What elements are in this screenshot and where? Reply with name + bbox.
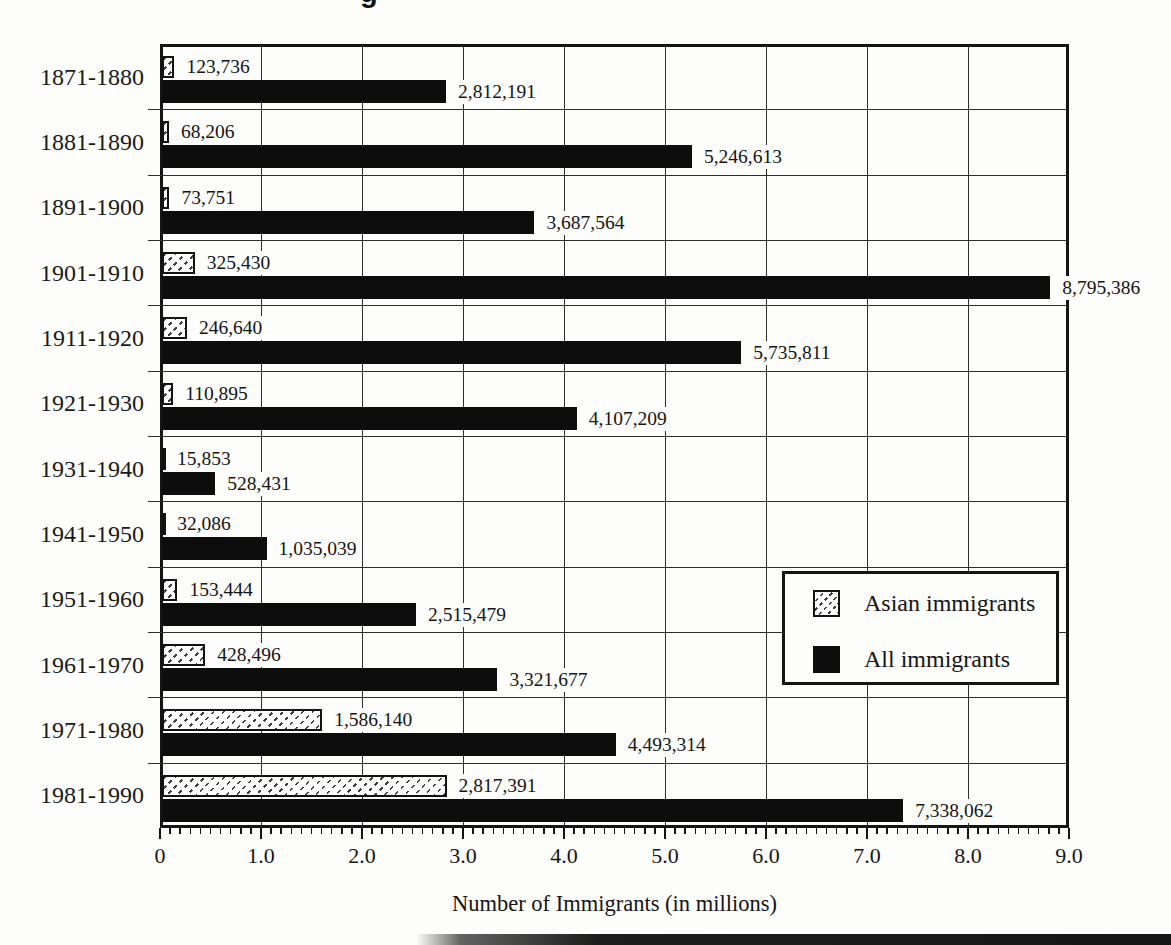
x-axis-minor-tick xyxy=(684,828,686,834)
x-axis-minor-tick xyxy=(987,828,989,834)
bar-all-immigrants xyxy=(162,799,903,822)
x-axis-minor-tick xyxy=(291,828,293,834)
bar-value-label-all: 528,431 xyxy=(223,472,294,496)
category-label: 1931-1940 xyxy=(8,455,144,483)
x-axis-minor-tick xyxy=(472,828,474,834)
bar-asian-immigrants xyxy=(162,121,169,143)
x-axis-minor-tick xyxy=(523,828,525,834)
x-axis-minor-tick xyxy=(937,828,939,834)
legend-label: All immigrants xyxy=(864,646,1010,673)
category-label: 1871-1880 xyxy=(8,63,144,91)
x-axis-major-tick xyxy=(361,828,363,839)
category-label: 1891-1900 xyxy=(8,193,144,221)
x-axis-minor-tick xyxy=(573,828,575,834)
category-label: 1981-1990 xyxy=(8,781,144,809)
x-axis-minor-tick xyxy=(533,828,535,834)
x-axis-minor-tick xyxy=(816,828,818,834)
x-axis-minor-tick xyxy=(735,828,737,834)
category-label: 1971-1980 xyxy=(8,716,144,744)
bar-all-immigrants xyxy=(162,341,741,364)
x-axis-minor-tick xyxy=(856,828,858,834)
bar-value-label-asian: 73,751 xyxy=(177,186,239,210)
x-axis-major-tick xyxy=(664,828,666,839)
x-axis-minor-tick xyxy=(604,828,606,834)
x-axis-minor-tick xyxy=(553,828,555,834)
x-axis-minor-tick xyxy=(270,828,272,834)
x-axis-minor-tick xyxy=(1048,828,1050,834)
x-axis-minor-tick xyxy=(381,828,383,834)
bar-asian-immigrants xyxy=(162,775,447,797)
x-axis-major-tick xyxy=(462,828,464,839)
x-axis-minor-tick xyxy=(705,828,707,834)
x-axis-major-tick xyxy=(1068,828,1070,839)
horizontal-gridline xyxy=(148,763,1066,764)
x-axis-minor-tick xyxy=(482,828,484,834)
chart-title-fragment: g xyxy=(360,0,378,9)
x-axis-minor-tick xyxy=(543,828,545,834)
x-axis-minor-tick xyxy=(836,828,838,834)
x-axis-minor-tick xyxy=(250,828,252,834)
bar-value-label-all: 3,687,564 xyxy=(542,211,628,235)
x-axis-minor-tick xyxy=(200,828,202,834)
horizontal-gridline xyxy=(148,305,1066,306)
x-axis-minor-tick xyxy=(280,828,282,834)
bar-all-immigrants xyxy=(162,211,534,234)
bar-value-label-all: 2,812,191 xyxy=(454,80,540,104)
horizontal-gridline xyxy=(148,697,1066,698)
x-axis-minor-tick xyxy=(644,828,646,834)
x-axis-tick-label: 0 xyxy=(130,843,190,869)
bar-value-label-asian: 68,206 xyxy=(177,120,239,144)
x-axis-minor-tick xyxy=(210,828,212,834)
x-axis-minor-tick xyxy=(846,828,848,834)
x-axis-minor-tick xyxy=(371,828,373,834)
bar-all-immigrants xyxy=(162,80,446,103)
x-axis-minor-tick xyxy=(331,828,333,834)
x-axis-minor-tick xyxy=(179,828,181,834)
x-axis-minor-tick xyxy=(755,828,757,834)
x-axis-tick-label: 5.0 xyxy=(635,843,695,869)
bar-all-immigrants xyxy=(162,276,1050,299)
x-axis-minor-tick xyxy=(886,828,888,834)
x-axis-minor-tick xyxy=(826,828,828,834)
x-axis-minor-tick xyxy=(917,828,919,834)
chart-legend: Asian immigrants All immigrants xyxy=(782,571,1059,685)
page-edge-shadow xyxy=(416,934,1171,945)
x-axis-tick-label: 3.0 xyxy=(433,843,493,869)
bar-value-label-asian: 428,496 xyxy=(213,643,284,667)
bar-value-label-all: 4,493,314 xyxy=(624,733,710,757)
category-label: 1941-1950 xyxy=(8,520,144,548)
x-axis-minor-tick xyxy=(998,828,1000,834)
bar-value-label-asian: 153,444 xyxy=(185,578,256,602)
bar-asian-immigrants xyxy=(162,644,205,666)
x-axis-minor-tick xyxy=(351,828,353,834)
x-axis-minor-tick xyxy=(654,828,656,834)
x-axis-minor-tick xyxy=(775,828,777,834)
bar-value-label-all: 3,321,677 xyxy=(505,668,591,692)
x-axis-minor-tick xyxy=(907,828,909,834)
x-axis-major-tick xyxy=(866,828,868,839)
legend-label: Asian immigrants xyxy=(864,590,1035,617)
bar-all-immigrants xyxy=(162,537,267,560)
plot-area: 123,7362,812,19168,2065,246,61373,7513,6… xyxy=(160,44,1069,828)
x-axis-major-tick xyxy=(260,828,262,839)
x-axis-minor-tick xyxy=(442,828,444,834)
x-axis-minor-tick xyxy=(897,828,899,834)
x-axis-minor-tick xyxy=(513,828,515,834)
x-axis-minor-tick xyxy=(614,828,616,834)
x-axis-minor-tick xyxy=(977,828,979,834)
bar-value-label-asian: 123,736 xyxy=(182,55,253,79)
x-axis-tick-label: 1.0 xyxy=(231,843,291,869)
x-axis-minor-tick xyxy=(321,828,323,834)
x-axis-minor-tick xyxy=(301,828,303,834)
x-axis-tick-label: 2.0 xyxy=(332,843,392,869)
x-axis-major-tick xyxy=(765,828,767,839)
x-axis-minor-tick xyxy=(503,828,505,834)
bar-all-immigrants xyxy=(162,472,215,495)
x-axis-minor-tick xyxy=(583,828,585,834)
bar-value-label-all: 5,246,613 xyxy=(700,145,786,169)
black-swatch-icon xyxy=(813,646,840,673)
bar-all-immigrants xyxy=(162,145,692,168)
x-axis-tick-label: 7.0 xyxy=(837,843,897,869)
bar-value-label-all: 7,338,062 xyxy=(911,799,997,823)
x-axis-major-tick xyxy=(563,828,565,839)
